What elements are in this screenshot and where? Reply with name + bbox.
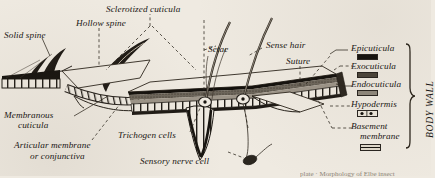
label-setae: Setae — [208, 44, 228, 55]
label-articular-membrane-line1: Articular membrane — [14, 140, 91, 151]
cuticle-cross-section — [128, 66, 347, 160]
label-hypodermis: Hypodermis — [351, 99, 397, 110]
solid-spine-group — [2, 48, 72, 88]
swatch-epicuticula — [357, 54, 378, 60]
swatch-basement-membrane — [360, 144, 381, 151]
label-suture: Suture — [286, 56, 310, 67]
swatch-hypodermis — [357, 110, 378, 117]
cropped-caption: plate · Morphology of Elbe insect — [300, 170, 431, 178]
label-hollow-spine: Hollow spine — [76, 18, 126, 29]
label-sense-hair: Sense hair — [266, 40, 306, 51]
swatch-endocuticula — [357, 90, 378, 96]
label-endocuticula: Endocuticula — [351, 79, 401, 90]
body-wall-brace — [406, 44, 415, 148]
label-membranous-cuticula-line1: Membranous — [4, 110, 54, 121]
label-articular-membrane-line2: or conjunctiva — [30, 151, 85, 162]
label-body-wall: BODY WALL — [424, 80, 435, 138]
label-basement-membrane-line1: Basement — [351, 121, 388, 132]
label-membranous-cuticula-line2: cuticula — [18, 120, 48, 131]
label-trichogen-cells: Trichogen cells — [118, 130, 176, 141]
label-basement-membrane-line2: membrane — [360, 131, 400, 142]
label-sensory-nerve-cell: Sensory nerve cell — [140, 156, 209, 167]
label-sclerotized-cuticula: Sclerotized cuticula — [106, 4, 180, 15]
sensory-nerve-cell-body — [242, 154, 258, 167]
label-epicuticula: Epicuticula — [351, 43, 394, 54]
swatch-exocuticula — [357, 72, 378, 78]
label-exocuticula: Exocuticula — [351, 61, 396, 72]
solid-spine-shape — [44, 48, 66, 72]
label-solid-spine: Solid spine — [4, 30, 46, 41]
